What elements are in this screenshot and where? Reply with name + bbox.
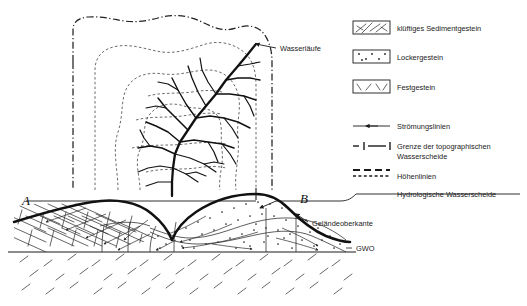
legend-label-loose-sediment: Lockergestein — [397, 53, 443, 62]
legend-line-contour-lines: Höhenlinien — [353, 170, 436, 181]
legend-line-hydrological-divide: Hydrologische Wasserscheide — [397, 190, 496, 199]
legend-line-flow-lines: Strömungslinien — [353, 122, 450, 131]
stream-label-group: Wasserläufe — [256, 44, 321, 53]
legend-label-flow-lines: Strömungslinien — [397, 122, 450, 131]
gwo-label: GWO — [356, 244, 375, 253]
legend-label-topographic-divide-line2: Wasserscheide — [397, 152, 447, 161]
bedrock-layer — [20, 254, 352, 294]
legend-line-topographic-divide: Grenze der topographischen Wasserscheide — [353, 142, 491, 161]
contour-lines-map — [95, 42, 256, 190]
flow-lines-section — [46, 208, 318, 250]
section-marker-b: B — [300, 191, 308, 206]
section-marker-a: A — [21, 193, 30, 208]
legend-pattern-fractured-sedimentary-rock: klüftiges Sedimentgestein — [353, 21, 481, 34]
legend-label-topographic-divide: Grenze der topographischen — [397, 142, 491, 151]
legend-pattern-bedrock: Festgestein — [353, 80, 435, 93]
legend-label-fractured-sedimentary-rock: klüftiges Sedimentgestein — [397, 24, 481, 33]
surface-label: Geländeoberkante — [312, 219, 373, 228]
stream-network — [138, 44, 260, 196]
legend-label-contour-lines: Höhenlinien — [397, 172, 436, 181]
hydrogeology-figure: Wasserläufe — [0, 0, 527, 306]
fractured-sediment-hatching — [6, 204, 158, 252]
legend-label-bedrock: Festgestein — [397, 83, 435, 92]
stream-label: Wasserläufe — [280, 44, 321, 53]
legend-pattern-loose-sediment: Lockergestein — [353, 50, 443, 63]
legend-label-hydrological-divide: Hydrologische Wasserscheide — [397, 190, 496, 199]
